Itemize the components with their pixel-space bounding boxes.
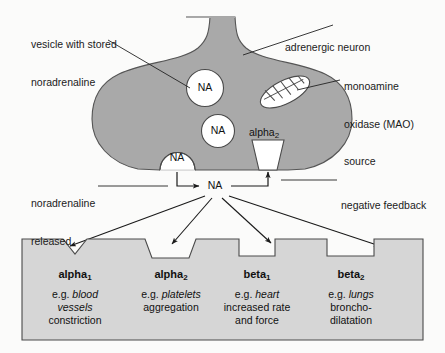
na-label-vesicle-mid: NA [203,125,233,136]
receptor-3-name: beta [337,268,360,280]
receptor-label-alpha2: alpha2 [131,268,211,280]
receptor-1-name: alpha [154,268,183,280]
release-arrow [177,172,199,186]
receptor-2-name: beta [243,268,266,280]
na-label-cleft: NA [200,180,230,191]
diagram-canvas: vesicle with stored noradrenaline adrene… [0,0,445,353]
arrow-to-alpha2 [172,198,212,244]
receptor-desc-alpha2-line-0: e.g. platelets [121,288,221,301]
receptor-desc-beta1: e.g. heartincreased rateand force [207,288,307,327]
receptor-desc-beta2-line-1: broncho- [301,301,401,314]
callout-vesicle: vesicle with stored noradrenaline [31,13,117,113]
na-label-vesicle-releasing: NA [162,152,192,163]
negative-feedback-arrow [231,172,268,186]
receptor-desc-beta1-line-0: e.g. heart [207,288,307,301]
autoreceptor-name: alpha [249,126,275,138]
callout-negative-feedback: negative feedback [341,174,426,237]
receptor-desc-beta2-line-0: e.g. lungs [301,288,401,301]
callout-vesicle-line1: vesicle with stored [31,38,117,51]
receptor-desc-alpha2-line-1: aggregation [121,301,221,314]
receptor-desc-beta2: e.g. lungsbroncho-dilatation [301,288,401,327]
receptor-2-subscript: 1 [266,273,270,282]
callout-mao-line1: monoamine [344,80,414,93]
receptor-0-subscript: 1 [87,273,91,282]
autoreceptor-subscript: 2 [275,131,279,140]
receptor-desc-beta1-line-1: increased rate [207,301,307,314]
callout-released: noradrenaline released [31,172,95,272]
receptor-3-subscript: 2 [360,273,364,282]
receptor-desc-alpha1: e.g. bloodvesselsconstriction [25,288,125,327]
autoreceptor-alpha2-label: alpha2 [249,126,279,138]
receptor-desc-alpha1-line-0: e.g. blood [25,288,125,301]
receptor-1-subscript: 2 [183,273,187,282]
arrow-to-beta1 [222,198,271,243]
receptor-label-alpha1: alpha1 [35,268,115,280]
receptor-desc-beta2-line-2: dilatation [301,314,401,327]
receptor-desc-alpha1-line-1: vessels [25,301,125,314]
receptor-desc-alpha2: e.g. plateletsaggregation [121,288,221,314]
callout-feedback-line1: negative feedback [341,199,426,212]
callout-released-line2: released [31,235,95,248]
callout-mao: monoamine oxidase (MAO) source [344,55,414,193]
receptor-label-beta2: beta2 [311,268,391,280]
callout-released-line1: noradrenaline [31,197,95,210]
receptor-label-beta1: beta1 [217,268,297,280]
callout-neuron-line1: adrenergic neuron [285,41,370,54]
callout-mao-line2: oxidase (MAO) [344,118,414,131]
receptor-desc-alpha1-line-2: constriction [25,314,125,327]
callout-vesicle-line2: noradrenaline [31,76,117,89]
receptor-desc-beta1-line-2: and force [207,314,307,327]
callout-mao-line3: source [344,155,414,168]
receptor-0-name: alpha [58,268,87,280]
na-label-vesicle-top: NA [190,82,220,93]
